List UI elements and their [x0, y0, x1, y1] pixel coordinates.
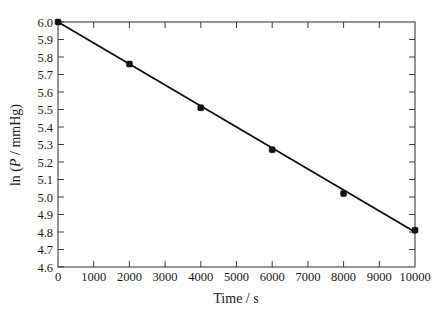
y-tick-label: 5.7 [37, 68, 53, 82]
data-point-marker [269, 147, 275, 153]
y-tick-label: 5.8 [37, 51, 53, 65]
x-tick-label: 8000 [331, 270, 356, 284]
data-point-marker [55, 19, 61, 25]
y-tick-label: 5.3 [37, 138, 53, 152]
y-tick-label: 4.9 [37, 208, 53, 222]
x-tick-label: 10000 [399, 270, 430, 284]
y-axis-title-prefix: ln ( [8, 167, 24, 186]
x-axis-ticks [94, 261, 380, 267]
y-tick-label: 5.5 [37, 103, 53, 117]
y-tick-label: 5.2 [37, 156, 53, 170]
y-tick-label: 5.9 [37, 33, 53, 47]
x-tick-label: 1000 [81, 270, 106, 284]
y-tick-label: 4.7 [37, 243, 53, 257]
x-tick-label: 2000 [117, 270, 142, 284]
y-tick-label: 5.1 [37, 173, 53, 187]
x-tick-label: 5000 [224, 270, 249, 284]
plot-frame [58, 22, 415, 267]
y-tick-label: 5.6 [37, 86, 53, 100]
y-tick-label: 6.0 [37, 16, 53, 30]
x-axis-title: Time / s [213, 291, 258, 306]
y-tick-label: 4.8 [37, 226, 53, 240]
data-point-marker [341, 191, 347, 197]
data-point-marker [412, 227, 418, 233]
x-tick-label: 6000 [260, 270, 285, 284]
x-tick-label: 0 [55, 270, 61, 284]
y-tick-label: 5.4 [37, 121, 53, 135]
x-tick-label: 4000 [188, 270, 213, 284]
data-series-layer [55, 19, 418, 233]
data-point-marker [126, 61, 132, 67]
x-tick-label: 9000 [367, 270, 392, 284]
y-axis-ticks-right [409, 40, 415, 250]
y-axis-title-suffix: / mmHg) [8, 104, 24, 159]
x-axis-ticks-top [94, 22, 380, 28]
x-tick-label: 7000 [295, 270, 320, 284]
y-axis-title-symbol: P [8, 158, 23, 168]
chart-figure: 4.6 4.7 4.8 4.9 5.0 5.1 5.2 5.3 5.4 5.5 … [0, 0, 439, 319]
chart-svg: 4.6 4.7 4.8 4.9 5.0 5.1 5.2 5.3 5.4 5.5 … [0, 0, 439, 319]
data-point-marker [198, 105, 204, 111]
trend-line [58, 22, 415, 232]
y-tick-label: 5.0 [37, 191, 53, 205]
x-tick-label: 3000 [153, 270, 178, 284]
y-tick-label: 4.6 [37, 261, 53, 275]
y-axis-ticks [58, 22, 64, 267]
y-axis-title: ln (P / mmHg) [8, 104, 24, 186]
y-tick-labels: 4.6 4.7 4.8 4.9 5.0 5.1 5.2 5.3 5.4 5.5 … [37, 16, 53, 275]
x-tick-labels: 0 1000 2000 3000 4000 5000 6000 7000 800… [55, 270, 431, 284]
